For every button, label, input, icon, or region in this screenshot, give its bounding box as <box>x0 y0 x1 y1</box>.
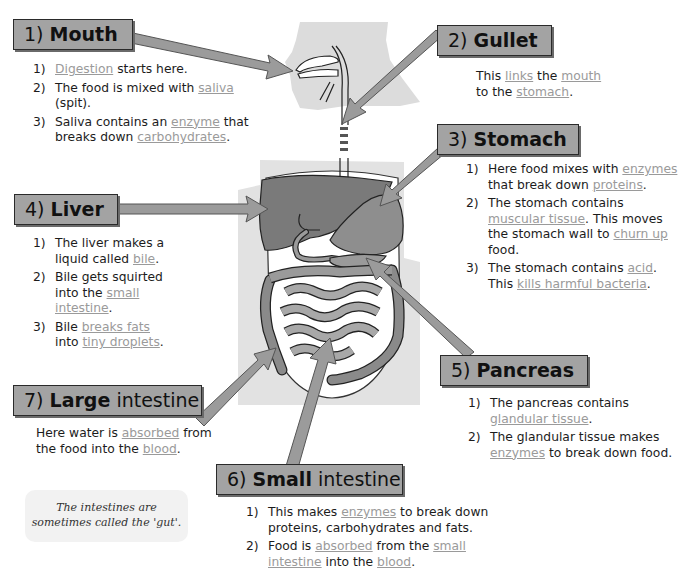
keyword: blood <box>377 555 411 569</box>
list-item: 1)Here food mixes with enzymes that brea… <box>466 162 681 193</box>
item-number: 2) <box>246 539 268 570</box>
item-number: 3) <box>33 115 55 146</box>
text: . <box>226 130 230 144</box>
label-title: Mouth <box>50 23 118 45</box>
label-liver: 4) Liver <box>14 194 118 225</box>
text: This makes <box>268 505 341 519</box>
text: into <box>55 335 82 349</box>
text: starts here. <box>113 62 187 76</box>
large-intestine-description: Here water is absorbed from the food int… <box>36 426 226 457</box>
keyword: Digestion <box>55 62 113 76</box>
item-number: 2) <box>33 270 55 317</box>
list-item: 2)Bile gets squirted into the small inte… <box>33 270 173 317</box>
label-title: Gullet <box>474 29 538 51</box>
text: . <box>160 335 164 349</box>
keyword: saliva <box>198 81 234 95</box>
label-gullet: 2) Gullet <box>437 25 552 56</box>
label-stomach: 3) Stomach <box>437 124 579 155</box>
label-title: Pancreas <box>477 359 574 381</box>
item-text: Digestion starts here. <box>55 62 273 78</box>
liver-description: 1)The liver makes a liquid called bile.2… <box>33 236 173 354</box>
text: from the <box>373 539 434 553</box>
item-text: This makes enzymes to break down protein… <box>268 505 506 536</box>
text: The pancreas contains <box>490 396 629 410</box>
list-item: 3)Saliva contains an enzyme that breaks … <box>33 115 273 146</box>
item-text: Food is absorbed from the small intestin… <box>268 539 506 570</box>
item-text: Bile gets squirted into the small intest… <box>55 270 173 317</box>
list-item: 2)The food is mixed with saliva (spit). <box>33 81 273 112</box>
pancreas-description: 1)The pancreas contains glandular tissue… <box>468 396 680 464</box>
text: . <box>155 252 159 266</box>
keyword: mouth <box>561 69 601 83</box>
keyword: enzymes <box>341 505 396 519</box>
label-title-light: intestine <box>318 468 401 490</box>
label-title: Stomach <box>474 128 567 150</box>
item-text: Bile breaks fats into tiny droplets. <box>55 320 173 351</box>
list-item: 1)The liver makes a liquid called bile. <box>33 236 173 267</box>
text: . <box>647 277 651 291</box>
label-title-light: intestine <box>116 389 199 411</box>
keyword: breaks fats <box>82 320 150 334</box>
item-text: The pancreas contains glandular tissue. <box>490 396 680 427</box>
text: . <box>569 85 573 99</box>
keyword: bile <box>133 252 155 266</box>
text: The glandular tissue makes <box>490 430 659 444</box>
label-number: 5) <box>451 359 471 381</box>
list-item: 1)This makes enzymes to break down prote… <box>246 505 506 536</box>
list-item: 1)The pancreas contains glandular tissue… <box>468 396 680 427</box>
text: to break down food. <box>545 446 672 460</box>
text: Food is <box>268 539 315 553</box>
keyword: enzymes <box>622 162 677 176</box>
text: The stomach contains <box>488 196 624 210</box>
item-number: 1) <box>466 162 488 193</box>
text: into the <box>322 555 377 569</box>
item-text: The stomach contains acid. This kills ha… <box>488 261 681 292</box>
item-number: 2) <box>33 81 55 112</box>
label-pancreas: 5) Pancreas <box>440 355 588 386</box>
keyword: muscular tissue <box>488 212 585 226</box>
label-small-intestine: 6) Small intestine <box>216 464 403 495</box>
item-number: 3) <box>33 320 55 351</box>
stomach-description: 1)Here food mixes with enzymes that brea… <box>466 162 681 295</box>
text: the <box>533 69 561 83</box>
item-text: Saliva contains an enzyme that breaks do… <box>55 115 273 146</box>
text: . <box>643 178 647 192</box>
list-item: 3)Bile breaks fats into tiny droplets. <box>33 320 173 351</box>
list-item: 2)The glandular tissue makes enzymes to … <box>468 430 680 461</box>
item-text: The liver makes a liquid called bile. <box>55 236 173 267</box>
label-number: 4) <box>25 198 45 220</box>
text: . <box>588 412 592 426</box>
tip-note: The intestines are sometimes called the … <box>25 490 188 542</box>
label-number: 7) <box>24 389 44 411</box>
keyword: carbohydrates <box>137 130 226 144</box>
list-item: 2)Food is absorbed from the small intest… <box>246 539 506 570</box>
label-number: 1) <box>24 23 44 45</box>
keyword: kills harmful bacteria <box>517 277 647 291</box>
keyword: absorbed <box>315 539 373 553</box>
tip-line-1: The intestines are <box>25 500 188 515</box>
text: (spit). <box>55 96 91 110</box>
text: Here water is <box>36 426 122 440</box>
label-large-intestine: 7) Large intestine <box>13 385 202 416</box>
item-text: The food is mixed with saliva (spit). <box>55 81 273 112</box>
gullet-description: This links the mouth to the stomach. <box>476 69 616 100</box>
label-title-bold: Large <box>50 389 111 411</box>
item-text: The glandular tissue makes enzymes to br… <box>490 430 680 461</box>
label-title: Liver <box>51 198 104 220</box>
keyword: links <box>505 69 533 83</box>
item-number: 1) <box>468 396 490 427</box>
label-number: 3) <box>448 128 468 150</box>
small-intestine-description: 1)This makes enzymes to break down prote… <box>246 505 506 573</box>
keyword: blood <box>143 442 177 456</box>
mouth-description: 1)Digestion starts here.2)The food is mi… <box>33 62 273 149</box>
item-text: The stomach contains muscular tissue. Th… <box>488 196 681 258</box>
keyword: absorbed <box>122 426 180 440</box>
item-number: 1) <box>246 505 268 536</box>
list-item: 3)The stomach contains acid. This kills … <box>466 261 681 292</box>
text: food. <box>488 243 519 257</box>
item-number: 1) <box>33 236 55 267</box>
keyword: enzymes <box>490 446 545 460</box>
text: Here food mixes with <box>488 162 622 176</box>
item-text: Here food mixes with enzymes that break … <box>488 162 681 193</box>
text: The stomach contains <box>488 261 627 275</box>
